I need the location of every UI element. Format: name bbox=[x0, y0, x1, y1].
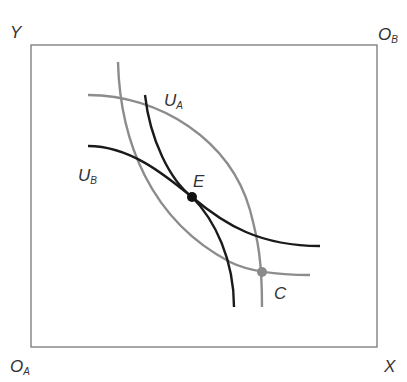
ua-label: UA bbox=[164, 91, 183, 111]
edgeworth-box-diagram: Y X OA OB UA UB E C bbox=[0, 0, 407, 382]
ub-label-sub: B bbox=[90, 175, 97, 186]
origin-a-sub: A bbox=[22, 366, 30, 377]
ua-label-main: U bbox=[164, 91, 177, 110]
point-e-label: E bbox=[193, 172, 205, 191]
origin-b-main: O bbox=[378, 25, 391, 44]
gray-curve-outer bbox=[88, 95, 262, 307]
ub-indifference-curve bbox=[88, 146, 320, 246]
point-c bbox=[257, 267, 267, 277]
origin-a-main: O bbox=[10, 357, 23, 376]
point-e bbox=[187, 192, 197, 202]
origin-b-label: OB bbox=[378, 25, 398, 45]
y-axis-label: Y bbox=[10, 23, 23, 42]
point-c-label: C bbox=[274, 284, 287, 303]
origin-a-label: OA bbox=[10, 357, 30, 377]
ub-label-main: U bbox=[78, 166, 91, 185]
ub-label: UB bbox=[78, 166, 97, 186]
ua-label-sub: A bbox=[175, 100, 183, 111]
origin-b-sub: B bbox=[391, 34, 398, 45]
x-axis-label: X bbox=[383, 357, 396, 376]
edgeworth-box-frame bbox=[31, 45, 377, 347]
